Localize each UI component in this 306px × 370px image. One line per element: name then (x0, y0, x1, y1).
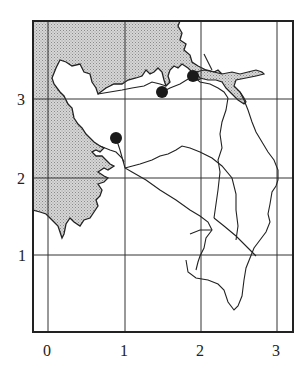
x-tick-3: 3 (272, 342, 280, 359)
site-marker-b[interactable] (156, 86, 168, 98)
map: 0 1 2 3 3 2 1 (0, 0, 306, 370)
y-axis-labels: 3 2 1 (17, 91, 26, 264)
site-marker-a[interactable] (110, 132, 122, 144)
x-tick-2: 2 (196, 342, 204, 359)
x-axis-labels: 0 1 2 3 (43, 342, 280, 359)
y-tick-3: 3 (17, 91, 25, 108)
site-marker-c[interactable] (187, 70, 199, 82)
x-tick-0: 0 (43, 342, 51, 359)
y-tick-2: 2 (17, 170, 25, 187)
y-tick-1: 1 (18, 247, 26, 264)
land-mass-west (33, 21, 222, 238)
x-tick-1: 1 (120, 342, 128, 359)
